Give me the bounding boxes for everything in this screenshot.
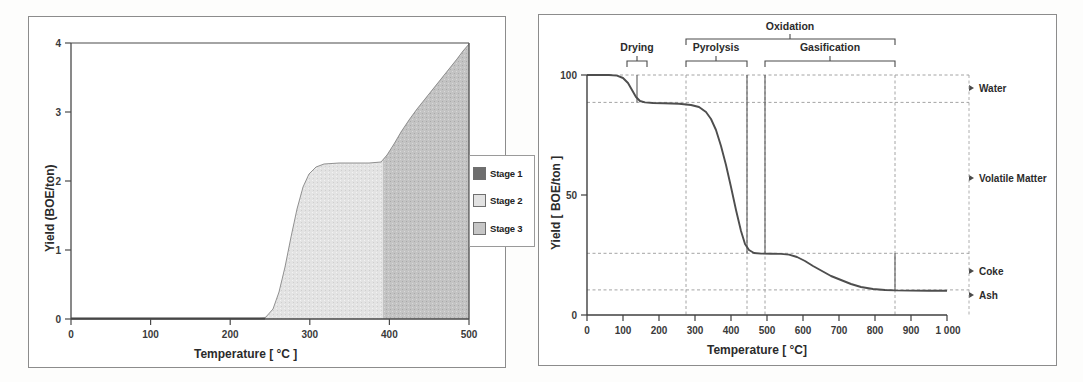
right-xtick-100: 100 [615,325,632,336]
legend-label-stage-3: Stage 3 [490,223,522,234]
left-y-tick-marks [65,43,71,319]
left-xtick-500: 500 [461,329,478,340]
right-xtick-1000: 1 000 [935,325,960,336]
marker-water [969,85,974,91]
right-y-tick-marks [581,75,587,315]
legend-swatch-stage-2 [473,194,486,207]
legend-swatch-stage-3 [473,222,486,235]
right-xtick-600: 600 [795,325,812,336]
right-plot-background [587,75,947,315]
legend-label-stage-1: Stage 1 [490,168,522,179]
annotation-pyrolysis: Pyrolysis [693,41,740,53]
right-ytick-100: 100 [547,70,577,81]
right-chart-canvas [539,15,1056,365]
right-xtick-700: 700 [831,325,848,336]
bracket-gasification [765,56,895,67]
left-y-axis-title: Yield (BOE/ton) [43,164,57,252]
right-x-axis-title: Temperature [ °C] [707,343,807,357]
left-xtick-0: 0 [68,329,74,340]
right-xtick-0: 0 [584,325,590,336]
right-xtick-900: 900 [903,325,920,336]
right-ytick-0: 0 [547,310,577,321]
left-chart-legend: Stage 1 Stage 2 Stage 3 [469,155,535,247]
bracket-drying [627,56,647,67]
side-label-water: Water [979,83,1006,94]
right-xtick-800: 800 [867,325,884,336]
right-xtick-200: 200 [651,325,668,336]
side-label-coke: Coke [979,266,1003,277]
left-xtick-300: 300 [301,329,318,340]
marker-coke [969,268,974,274]
legend-item-stage-2[interactable]: Stage 2 [473,192,531,210]
marker-volatile-matter [969,175,974,181]
left-ytick-0: 0 [45,314,61,325]
right-xtick-400: 400 [723,325,740,336]
legend-label-stage-2: Stage 2 [490,195,522,206]
left-xtick-400: 400 [381,329,398,340]
bracket-pyrolysis [686,56,747,67]
side-label-ash: Ash [979,290,998,301]
left-x-tick-marks [71,319,469,325]
right-chart-panel: 0 50 100 0 100 200 300 400 500 600 700 8… [538,14,1057,366]
right-y-axis-title: Yield [ BOE/ton ] [549,156,563,250]
side-label-volatile-matter: Volatile Matter [979,173,1047,184]
left-chart-panel: 0 1 2 3 4 0 100 200 300 400 500 Temperat… [28,16,506,368]
left-xtick-200: 200 [222,329,239,340]
annotation-drying: Drying [620,41,653,53]
figure-root: 0 1 2 3 4 0 100 200 300 400 500 Temperat… [0,0,1083,382]
right-xtick-300: 300 [687,325,704,336]
legend-item-stage-3[interactable]: Stage 3 [473,219,531,237]
left-chart-canvas [29,17,505,367]
left-xtick-100: 100 [142,329,159,340]
annotation-oxidation: Oxidation [766,20,814,32]
legend-item-stage-1[interactable]: Stage 1 [473,165,531,183]
left-ytick-4: 4 [45,38,61,49]
marker-ash [969,292,974,298]
left-ytick-3: 3 [45,107,61,118]
right-side-label-markers [969,85,974,298]
annotation-gasification: Gasification [800,41,860,53]
legend-swatch-stage-1 [473,167,486,180]
right-xtick-500: 500 [759,325,776,336]
right-x-tick-marks [587,315,947,321]
left-x-axis-title: Temperature [ °C ] [194,347,297,361]
